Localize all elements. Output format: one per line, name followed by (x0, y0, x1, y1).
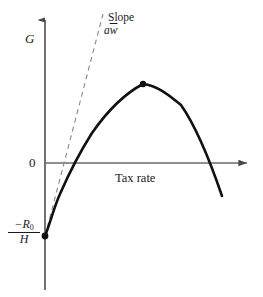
curve-maximum-marker (140, 81, 146, 87)
figure-canvas (0, 0, 263, 297)
slope-expression-aw: aw (104, 25, 117, 37)
laffer-curve-figure: G 0 Tax rate Slope aw −R0 H (0, 0, 263, 297)
revenue-curve (45, 84, 222, 236)
y-intercept-fraction-label: −R0 H (8, 218, 40, 246)
x-axis-label: Tax rate (115, 172, 155, 185)
slope-wage-wbar: w (110, 24, 118, 36)
slope-annotation-label: Slope (108, 12, 134, 24)
origin-zero-label: 0 (29, 156, 36, 169)
numerator-subscript-zero: 0 (30, 223, 34, 232)
y-axis-label: G (25, 32, 34, 45)
tangent-dashed-line (45, 14, 103, 236)
numerator-variable-R: R (22, 217, 29, 231)
fraction-denominator-H: H (8, 232, 40, 246)
fraction-numerator: −R0 (8, 218, 40, 232)
y-intercept-marker (42, 233, 49, 240)
